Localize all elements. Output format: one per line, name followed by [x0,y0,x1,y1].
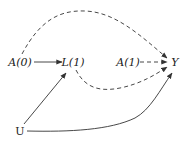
node-y: Y [171,56,180,69]
edge-l1-to-y [76,67,167,89]
node-l1: L(1) [61,56,85,69]
causal-diagram: A(0) L(1) A(1) Y U [0,0,187,143]
edge-a0-to-y [22,11,167,58]
edge-u-to-y [27,73,172,131]
node-u: U [15,125,24,138]
node-a1: A(1) [115,56,140,69]
edge-u-to-l1 [24,73,66,124]
node-a0: A(0) [7,56,32,69]
